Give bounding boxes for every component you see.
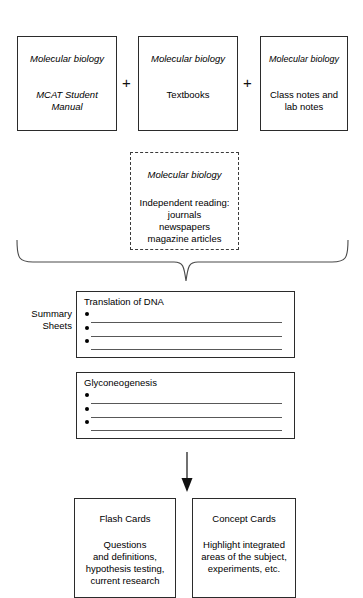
summary-sheets-label: Summary Sheets bbox=[0, 308, 72, 331]
summary-sheet-rule bbox=[91, 322, 282, 323]
output-card-concept-cards: Concept Cards Highlight integrated areas… bbox=[192, 498, 296, 598]
summary-sheet-bullet bbox=[85, 339, 89, 343]
summary-sheet-bullet bbox=[85, 407, 89, 411]
source-box-mcat-student-manual: Molecular biology MCAT Student Manual bbox=[17, 36, 117, 131]
source-box-detail: MCAT Student Manual bbox=[36, 89, 98, 113]
source-box-detail: Class notes and lab notes bbox=[270, 89, 338, 113]
summary-sheet-rule bbox=[91, 403, 282, 404]
summary-sheet-glyconeogenesis: Glyconeogenesis bbox=[76, 372, 295, 439]
source-box-detail: Textbooks bbox=[167, 89, 210, 101]
output-card-body: Questions and definitions, hypothesis te… bbox=[86, 539, 165, 587]
optional-source-box-independent-reading: Molecular biology Independent reading: j… bbox=[130, 152, 239, 250]
summary-sheet-translation-of-dna: Translation of DNA bbox=[76, 291, 295, 358]
source-box-subject: Molecular biology bbox=[151, 53, 225, 65]
optional-source-subject: Molecular biology bbox=[148, 169, 222, 181]
output-card-flash-cards: Flash Cards Questions and definitions, h… bbox=[74, 498, 176, 598]
summary-sheet-rule bbox=[91, 336, 282, 337]
optional-source-detail: Independent reading: journals newspapers… bbox=[140, 197, 230, 245]
source-box-class-notes: Molecular biology Class notes and lab no… bbox=[260, 36, 348, 131]
summary-sheet-title: Translation of DNA bbox=[84, 296, 164, 307]
output-card-body: Highlight integrated areas of the subjec… bbox=[201, 539, 287, 575]
summary-sheet-rule bbox=[91, 417, 282, 418]
plus-operator-1: + bbox=[122, 75, 131, 90]
output-card-title: Flash Cards bbox=[99, 513, 150, 525]
summary-sheet-bullet bbox=[85, 393, 89, 397]
summary-sheet-rule bbox=[91, 430, 282, 431]
output-card-title: Concept Cards bbox=[212, 513, 275, 525]
summary-sheet-bullet bbox=[85, 420, 89, 424]
source-box-textbooks: Molecular biology Textbooks bbox=[138, 36, 238, 131]
arrow-head bbox=[182, 478, 193, 492]
source-box-subject: Molecular biology bbox=[30, 53, 104, 65]
summary-sheet-title: Glyconeogenesis bbox=[84, 377, 157, 388]
summary-sheet-bullet bbox=[85, 326, 89, 330]
source-box-subject: Molecular biology bbox=[269, 53, 339, 65]
summary-sheet-bullet bbox=[85, 312, 89, 316]
plus-operator-2: + bbox=[243, 75, 252, 90]
summary-sheet-rule bbox=[91, 349, 282, 350]
